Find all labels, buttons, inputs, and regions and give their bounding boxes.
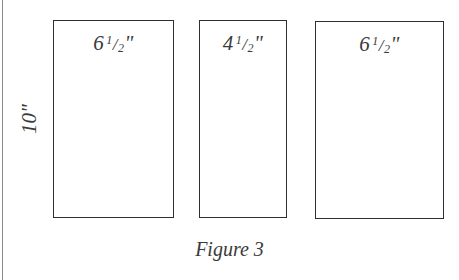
figure-caption: Figure 3 (0, 238, 459, 261)
height-dimension-label: 10" (17, 94, 41, 134)
panel-left: 61/2" (53, 20, 174, 218)
panel-right: 61/2" (315, 21, 444, 219)
panel-right-width-label: 61/2" (316, 32, 443, 57)
panel-middle-width-label: 41/2" (200, 31, 286, 56)
panel-left-width-label: 61/2" (54, 31, 173, 56)
panel-middle: 41/2" (199, 20, 287, 218)
